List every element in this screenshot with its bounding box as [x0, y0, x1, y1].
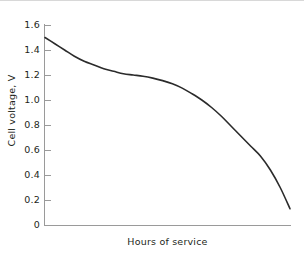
- plot-area: [0, 0, 304, 254]
- y-tick-mark-1.0: [45, 100, 51, 101]
- y-tick-label-wrap: 0.4: [0, 170, 40, 180]
- y-tick-label-wrap: 1.6: [0, 20, 40, 30]
- y-tick-label-wrap: 0: [0, 220, 40, 230]
- y-tick-label: 1.4: [2, 45, 40, 55]
- y-tick-label-wrap: 0.2: [0, 195, 40, 205]
- y-tick-label: 0.2: [2, 195, 40, 205]
- top-rule-divider: [0, 0, 304, 1]
- x-axis-spine: [44, 225, 291, 226]
- y-tick-label: 0.4: [2, 170, 40, 180]
- y-tick-mark-1.6: [45, 25, 51, 26]
- x-axis-title: Hours of service: [44, 236, 291, 247]
- y-tick-mark-0.8: [45, 125, 51, 126]
- y-tick-mark-0.6: [45, 150, 51, 151]
- y-tick-mark-0.2: [45, 200, 51, 201]
- discharge-curve-line: [45, 38, 290, 209]
- y-tick-label-wrap: 1.4: [0, 45, 40, 55]
- y-tick-label: 0: [2, 220, 40, 230]
- y-tick-mark-0.4: [45, 175, 51, 176]
- y-tick-label: 1.6: [2, 20, 40, 30]
- y-tick-mark-0: [45, 225, 51, 226]
- y-tick-mark-1.2: [45, 75, 51, 76]
- y-tick-mark-1.4: [45, 50, 51, 51]
- y-axis-title: Cell voltage, V: [6, 56, 17, 166]
- chart-figure: 1.6 1.4 1.2 1.0 0.8 0.6 0.4 0.2 0 Cell v…: [0, 0, 304, 254]
